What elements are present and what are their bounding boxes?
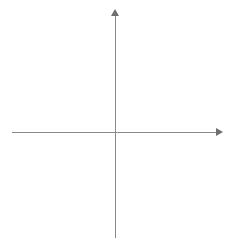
coordinate-plane-figure [0,0,242,251]
y-axis-line [115,13,116,238]
grid-layer [0,0,242,251]
y-axis-arrow-icon [111,9,119,16]
x-axis-arrow-icon [216,128,223,136]
